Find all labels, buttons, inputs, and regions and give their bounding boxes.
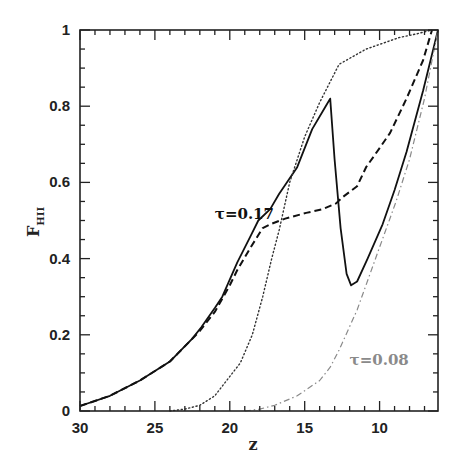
reionization-chart: 302520151000.20.40.60.81 z FHII τ=0.17τ=… (0, 0, 463, 474)
x-tick-label: 25 (147, 419, 164, 436)
y-axis-title-subscript: HII (35, 207, 46, 226)
x-tick-label: 15 (296, 419, 313, 436)
x-axis-title: z (248, 435, 257, 454)
x-tick-label: 30 (72, 419, 89, 436)
svg-text:FHII: FHII (24, 207, 46, 237)
y-tick-label: 1 (62, 21, 70, 38)
y-axis-title: FHII (24, 207, 46, 237)
y-tick-label: 0.2 (49, 326, 70, 343)
y-tick-label: 0.6 (49, 173, 70, 190)
x-tick-label: 20 (221, 419, 238, 436)
y-axis-title-main: F (24, 225, 43, 237)
y-tick-label: 0.8 (49, 97, 70, 114)
tau-annotation: τ=0.08 (350, 351, 409, 369)
x-tick-label: 10 (371, 419, 388, 436)
tick-labels: 302520151000.20.40.60.81 (49, 21, 388, 436)
y-tick-label: 0 (62, 402, 70, 419)
y-tick-label: 0.4 (49, 250, 71, 267)
tau-annotation: τ=0.17 (215, 205, 274, 223)
